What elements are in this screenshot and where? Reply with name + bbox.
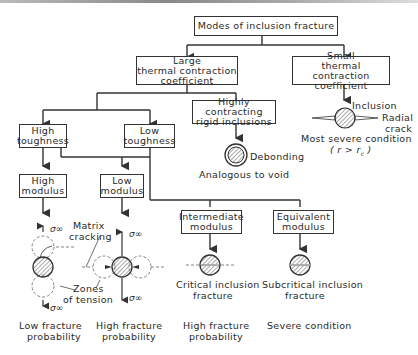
large-contraction-box: Large thermal contraction coefficient bbox=[136, 56, 238, 85]
most-severe-label: Most severe condition bbox=[301, 133, 412, 144]
outcome-high-2b: probability bbox=[189, 331, 243, 342]
box-line: Highly contracting bbox=[193, 97, 275, 117]
title-text: Modes of inclusion fracture bbox=[198, 21, 335, 31]
high-toughness-box: High toughness bbox=[19, 124, 67, 148]
sigma-label: σ∞ bbox=[50, 303, 63, 313]
subcritical-label: Subcritical inclusion bbox=[262, 279, 363, 290]
rigid-inclusions-box: Highly contracting rigid inclusions bbox=[192, 100, 276, 124]
box-line: toughness bbox=[123, 136, 175, 146]
outcome-high-1: High fracture bbox=[96, 320, 162, 331]
cracking-label: cracking bbox=[69, 231, 112, 242]
critical-fracture-label: fracture bbox=[193, 290, 233, 301]
radial-crack-inclusion-icon bbox=[312, 108, 378, 128]
critical-label: Critical inclusion bbox=[176, 279, 260, 290]
zones-label: Zones bbox=[73, 283, 104, 294]
inclusion-label: Inclusion bbox=[352, 100, 397, 111]
high-modulus-box: High modulus bbox=[19, 174, 67, 198]
title-box: Modes of inclusion fracture bbox=[194, 16, 338, 36]
box-line: modulus bbox=[101, 186, 144, 196]
debonding-label: Debonding bbox=[250, 151, 304, 162]
box-line: thermal contraction bbox=[293, 61, 389, 81]
box-line: thermal contraction bbox=[137, 66, 237, 76]
box-line: Large bbox=[173, 56, 201, 66]
box-line: modulus bbox=[190, 222, 233, 232]
condition-text: ( r > r bbox=[330, 144, 361, 155]
outcome-high-1b: probability bbox=[102, 331, 156, 342]
sigma-label: σ∞ bbox=[129, 293, 142, 303]
small-contraction-box: Small thermal contraction coefficient bbox=[292, 56, 390, 85]
sigma-label: σ∞ bbox=[50, 224, 63, 234]
debonding-inclusion-icon bbox=[225, 144, 247, 166]
equivalent-modulus-box: Equivalent modulus bbox=[273, 210, 334, 234]
box-line: coefficient bbox=[315, 81, 368, 91]
outcome-low: Low fracture bbox=[19, 320, 82, 331]
low-toughness-box: Low toughness bbox=[124, 124, 175, 148]
outcome-high-2: High fracture bbox=[183, 320, 249, 331]
sigma-label: σ∞ bbox=[129, 229, 142, 239]
tension-label: of tension bbox=[63, 294, 113, 305]
matrix-label: Matrix bbox=[73, 220, 105, 231]
outcome-severe: Severe condition bbox=[267, 320, 352, 331]
outcome-low-2: probability bbox=[27, 331, 81, 342]
box-line: Small bbox=[327, 51, 355, 61]
intermediate-modulus-box: Intermediate modulus bbox=[181, 210, 242, 234]
box-line: modulus bbox=[22, 186, 65, 196]
box-line: rigid inclusions bbox=[196, 117, 272, 127]
box-line: coefficient bbox=[161, 76, 214, 86]
low-modulus-box: Low modulus bbox=[100, 174, 144, 198]
radial-label: Radial bbox=[382, 112, 413, 123]
condition-close: ) bbox=[364, 144, 371, 155]
subcritical-fracture-label: fracture bbox=[285, 290, 325, 301]
box-line: toughness bbox=[17, 136, 69, 146]
condition-label: ( r > rc ) bbox=[330, 144, 372, 159]
box-line: modulus bbox=[282, 222, 325, 232]
void-label: Analogous to void bbox=[199, 169, 289, 180]
